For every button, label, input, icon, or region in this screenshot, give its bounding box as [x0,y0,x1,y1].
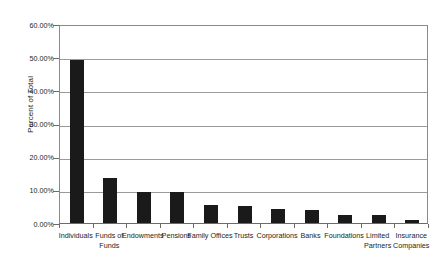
x-axis-tick-mark [193,224,194,228]
y-axis-tick-label: 50.00% [0,55,54,62]
x-axis-tick-mark [294,224,295,228]
bar [103,178,117,223]
bar [372,215,386,223]
bar [137,192,151,223]
x-axis-tick-mark [93,224,94,228]
x-axis-tick-mark [59,224,60,228]
x-axis-tick-mark [160,224,161,228]
gridline [60,159,427,160]
bar [70,60,84,223]
plot-area [59,25,428,224]
x-axis-tick-mark [260,224,261,228]
bar [170,192,184,223]
y-axis-tick-label: 40.00% [0,88,54,95]
bar [305,210,319,223]
x-axis-tick-mark [227,224,228,228]
y-axis-tick-label: 20.00% [0,154,54,161]
bar [271,209,285,223]
x-axis-category-label: Insurance Companies [388,231,434,250]
y-axis-tick-label: 30.00% [0,121,54,128]
x-axis-tick-mark [126,224,127,228]
bar [238,206,252,223]
bar [338,215,352,223]
y-axis-tick-label: 60.00% [0,22,54,29]
bar [405,220,419,223]
gridline [60,59,427,60]
bar-chart: Percent of Total 0.00%10.00%20.00%30.00%… [0,0,445,263]
x-axis-tick-mark [394,224,395,228]
gridline [60,126,427,127]
x-axis-tick-mark [361,224,362,228]
x-axis-tick-mark [428,224,429,228]
x-axis-tick-mark [327,224,328,228]
bar [204,205,218,223]
y-axis-tick-label: 0.00% [0,221,54,228]
gridline [60,92,427,93]
y-axis-tick-label: 10.00% [0,187,54,194]
